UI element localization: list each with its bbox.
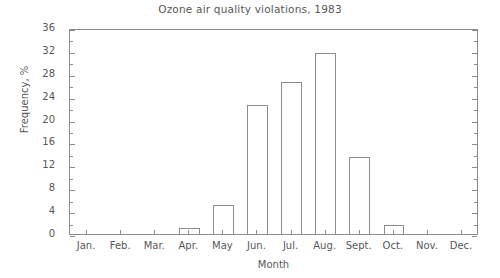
y-minor-tick-mark — [474, 110, 477, 111]
x-tick-mark — [359, 230, 360, 235]
y-minor-tick-mark — [70, 179, 73, 180]
y-tick-mark — [70, 76, 75, 77]
x-axis-title: Month — [69, 259, 478, 270]
x-tick-mark — [325, 230, 326, 235]
ozone-violations-bar-chart: Ozone air quality violations, 1983 Frequ… — [0, 0, 500, 278]
y-tick-label: 32 — [42, 45, 55, 56]
bar-jun — [247, 105, 267, 234]
x-tick-mark — [154, 230, 155, 235]
y-tick-mark — [472, 236, 477, 237]
y-tick-mark — [70, 30, 75, 31]
y-minor-tick-mark — [474, 133, 477, 134]
y-tick-mark — [472, 190, 477, 191]
x-tick-mark — [291, 230, 292, 235]
y-tick-mark — [472, 122, 477, 123]
bar-aug — [315, 53, 335, 234]
y-minor-tick-mark — [474, 87, 477, 88]
y-tick-label: 8 — [49, 182, 55, 193]
y-tick-mark — [70, 190, 75, 191]
y-minor-tick-mark — [474, 156, 477, 157]
x-tick-mark — [86, 230, 87, 235]
y-tick-mark — [472, 30, 477, 31]
x-tick-mark — [256, 230, 257, 235]
bar-jul — [281, 82, 301, 234]
y-minor-tick-mark — [474, 179, 477, 180]
x-tick-mark — [461, 230, 462, 235]
y-minor-tick-mark — [70, 41, 73, 42]
y-tick-mark — [472, 144, 477, 145]
y-tick-mark — [70, 122, 75, 123]
y-tick-mark — [472, 76, 477, 77]
chart-title: Ozone air quality violations, 1983 — [0, 3, 500, 15]
y-minor-tick-mark — [70, 156, 73, 157]
y-tick-label: 16 — [42, 136, 55, 147]
y-minor-tick-mark — [70, 202, 73, 203]
y-tick-label: 20 — [42, 114, 55, 125]
y-minor-tick-mark — [70, 110, 73, 111]
y-minor-tick-mark — [474, 41, 477, 42]
y-tick-mark — [472, 53, 477, 54]
bar-apr — [179, 228, 199, 234]
y-minor-tick-mark — [70, 64, 73, 65]
y-tick-mark — [70, 236, 75, 237]
y-axis-title: Frequency, % — [19, 40, 30, 160]
x-tick-label: Dec. — [431, 240, 491, 251]
x-tick-mark — [222, 230, 223, 235]
y-minor-tick-mark — [70, 225, 73, 226]
y-tick-label: 12 — [42, 159, 55, 170]
y-tick-label: 24 — [42, 91, 55, 102]
x-tick-mark — [427, 230, 428, 235]
y-tick-label: 0 — [49, 228, 55, 239]
y-minor-tick-mark — [474, 225, 477, 226]
x-tick-mark — [120, 230, 121, 235]
y-tick-mark — [70, 144, 75, 145]
y-tick-label: 36 — [42, 22, 55, 33]
y-tick-label: 4 — [49, 205, 55, 216]
y-tick-mark — [70, 99, 75, 100]
y-minor-tick-mark — [474, 64, 477, 65]
y-minor-tick-mark — [70, 87, 73, 88]
y-tick-mark — [70, 53, 75, 54]
y-tick-mark — [472, 167, 477, 168]
plot-area — [69, 29, 478, 235]
y-tick-label: 28 — [42, 68, 55, 79]
x-tick-mark — [188, 230, 189, 235]
y-tick-mark — [70, 213, 75, 214]
y-tick-mark — [472, 99, 477, 100]
bar-oct — [384, 225, 404, 234]
y-tick-mark — [70, 167, 75, 168]
bar-sept — [349, 157, 369, 234]
x-tick-mark — [393, 230, 394, 235]
y-minor-tick-mark — [70, 133, 73, 134]
y-minor-tick-mark — [474, 202, 477, 203]
y-tick-mark — [472, 213, 477, 214]
